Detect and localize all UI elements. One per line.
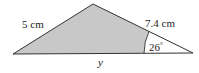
triangle-diagram: 5 cm 7.4 cm y 26° bbox=[0, 0, 199, 73]
base-label: y bbox=[97, 56, 103, 68]
degree-symbol: ° bbox=[160, 41, 163, 49]
left-side-label: 5 cm bbox=[22, 18, 44, 30]
right-side-label: 7.4 cm bbox=[145, 17, 175, 29]
angle-value: 26 bbox=[149, 41, 161, 53]
